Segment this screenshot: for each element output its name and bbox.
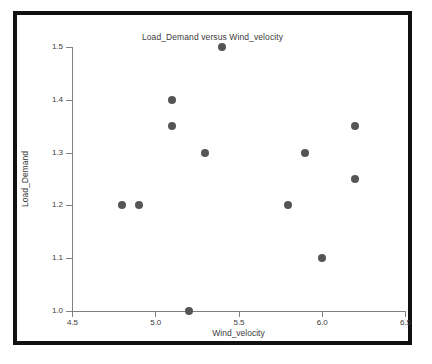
x-tick-mark bbox=[405, 311, 406, 317]
scatter-point bbox=[168, 122, 176, 130]
x-tick: 6.0 bbox=[322, 311, 323, 317]
scatter-chart: Load_Demand versus Wind_velocity 1.01.11… bbox=[17, 15, 408, 341]
y-tick-label: 1.3 bbox=[52, 148, 63, 157]
x-tick-label: 4.5 bbox=[67, 318, 78, 327]
x-tick-mark bbox=[155, 311, 156, 317]
x-tick: 6.5 bbox=[405, 311, 406, 317]
x-tick: 5.5 bbox=[239, 311, 240, 317]
y-tick-mark bbox=[66, 205, 72, 206]
x-axis-title: Wind_velocity bbox=[72, 328, 405, 338]
scatter-point bbox=[351, 122, 359, 130]
scatter-point bbox=[185, 307, 193, 315]
y-tick-mark bbox=[66, 100, 72, 101]
scatter-point bbox=[318, 254, 326, 262]
x-tick-label: 5.5 bbox=[233, 318, 244, 327]
x-tick-mark bbox=[239, 311, 240, 317]
y-tick-label: 1.4 bbox=[52, 95, 63, 104]
scatter-point bbox=[118, 201, 126, 209]
scatter-point bbox=[218, 43, 226, 51]
y-tick: 1.5 bbox=[66, 47, 72, 48]
scatter-point bbox=[135, 201, 143, 209]
y-axis-line bbox=[72, 47, 73, 312]
x-tick: 4.5 bbox=[72, 311, 73, 317]
scatter-point bbox=[284, 201, 292, 209]
y-tick-label: 1.1 bbox=[52, 253, 63, 262]
x-tick: 5.0 bbox=[155, 311, 156, 317]
scatter-point bbox=[168, 96, 176, 104]
plot-area: Load_Demand versus Wind_velocity 1.01.11… bbox=[17, 15, 408, 341]
scatter-point bbox=[351, 175, 359, 183]
x-tick-mark bbox=[322, 311, 323, 317]
scatter-point bbox=[201, 149, 209, 157]
y-tick: 1.2 bbox=[66, 205, 72, 206]
screenshot-page: Load_Demand versus Wind_velocity 1.01.11… bbox=[0, 0, 432, 364]
x-tick-label: 6.5 bbox=[400, 318, 411, 327]
x-tick-mark bbox=[72, 311, 73, 317]
figure-frame: Load_Demand versus Wind_velocity 1.01.11… bbox=[13, 11, 412, 345]
y-tick-label: 1.2 bbox=[52, 200, 63, 209]
y-tick-mark bbox=[66, 47, 72, 48]
y-tick: 1.1 bbox=[66, 258, 72, 259]
y-tick-mark bbox=[66, 153, 72, 154]
y-tick-label: 1.0 bbox=[52, 306, 63, 315]
y-tick: 1.3 bbox=[66, 153, 72, 154]
chart-title: Load_Demand versus Wind_velocity bbox=[17, 32, 408, 42]
y-tick-mark bbox=[66, 258, 72, 259]
y-tick-label: 1.5 bbox=[52, 42, 63, 51]
y-axis-title: Load_Demand bbox=[20, 151, 30, 207]
x-tick-label: 6.0 bbox=[317, 318, 328, 327]
y-tick: 1.4 bbox=[66, 100, 72, 101]
scatter-point bbox=[301, 149, 309, 157]
x-tick-label: 5.0 bbox=[150, 318, 161, 327]
